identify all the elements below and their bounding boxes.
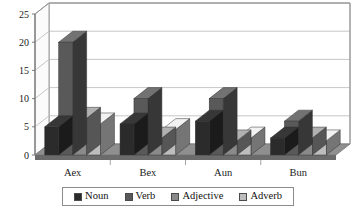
y-axis-tick-label: 0 [24,150,29,161]
legend-swatch-noun [74,193,82,201]
legend-label-verb: Verb [136,191,156,202]
bar-noun-aun [195,121,209,155]
legend-item-adjective: Adjective [171,191,223,202]
plot-svg: 0510152025AexBexAunBun [0,0,355,182]
y-axis-tick-label: 10 [19,93,29,104]
legend-item-noun: Noun [74,191,108,202]
x-axis-category-label: Aex [64,167,82,178]
legend-label-adjective: Adjective [182,191,223,202]
y-axis-tick-label: 5 [24,121,29,132]
legend-label-adverb: Adverb [250,191,282,202]
y-axis-tick-label: 20 [19,37,29,48]
legend-swatch-adjective [171,193,179,201]
bar-chart: 0510152025AexBexAunBun Noun Verb Adjecti… [0,0,355,215]
bar-noun-aex [45,127,59,155]
legend-item-adverb: Adverb [239,191,282,202]
x-axis-category-label: Bun [290,167,308,178]
bar-noun-bun [271,138,285,155]
y-axis-tick-label: 15 [19,65,29,76]
legend-item-verb: Verb [125,191,156,202]
plot-area: 0510152025AexBexAunBun [0,0,355,182]
chart-legend: Noun Verb Adjective Adverb [62,187,294,206]
legend-label-noun: Noun [85,191,108,202]
x-axis-category-label: Bex [139,167,157,178]
legend-swatch-verb [125,193,133,201]
legend-swatch-adverb [239,193,247,201]
bar-noun-bex [120,124,134,155]
x-axis-category-label: Aun [214,167,233,178]
y-axis-tick-label: 25 [19,9,29,20]
